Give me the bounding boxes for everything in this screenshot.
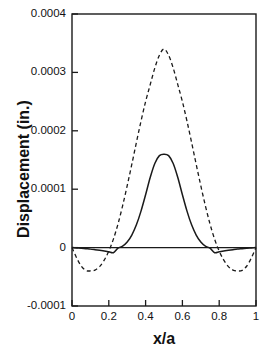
y-axis-ticks: [72, 14, 78, 306]
x-tick-label: 0.2: [89, 310, 129, 322]
x-tick-label: 0.6: [162, 310, 202, 322]
chart-figure: 0.0004 0.0003 0.0002 0.0001 0 -0.0001 0 …: [0, 0, 268, 358]
solid-curve: [72, 154, 256, 253]
plot-frame: [72, 14, 256, 306]
x-tick-label: 0.4: [126, 310, 166, 322]
dashed-curve: [72, 49, 256, 271]
y-axis-title: Displacement (in.): [15, 59, 33, 279]
x-axis-ticks: [72, 300, 256, 306]
y-tick-label: 0: [0, 241, 66, 253]
y-tick-label: 0.0002: [0, 124, 66, 136]
y-tick-label: 0.0003: [0, 65, 66, 77]
x-tick-label: 0: [52, 310, 92, 322]
y-tick-label: 0.0001: [0, 182, 66, 194]
x-tick-label: 1: [236, 310, 268, 322]
y-tick-label: 0.0004: [0, 7, 66, 19]
x-axis-title: x/a: [72, 330, 256, 348]
x-tick-label: 0.8: [199, 310, 239, 322]
